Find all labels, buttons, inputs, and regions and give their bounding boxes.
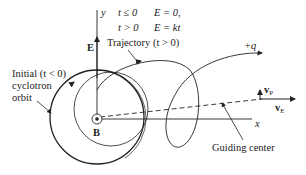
- guiding-center-pointer: [222, 103, 243, 140]
- ve-sub: E: [280, 107, 284, 115]
- inner-circle: [74, 72, 148, 146]
- x-axis-label: x: [255, 118, 260, 129]
- initial-orbit-label-1: Initial (t < 0): [12, 68, 66, 79]
- vp-label: vP: [264, 84, 273, 99]
- trajectory-label: Trajectory (t > 0): [107, 37, 179, 48]
- condition-e-line1: E = 0,: [154, 7, 181, 18]
- e-field-label: E: [87, 42, 94, 53]
- trajectory-path: [97, 53, 262, 147]
- condition-t-line2: t > 0: [118, 22, 139, 33]
- orbit-arrow-pointer: [37, 101, 51, 113]
- trajectory-pointer: [128, 50, 136, 60]
- orbit-arrow-left: [70, 82, 74, 85]
- trajectory-arrow-top: [136, 61, 141, 62]
- initial-orbit-label-2: cyclotron: [12, 80, 52, 91]
- initial-orbit-label-3: orbit: [12, 92, 32, 103]
- b-field-symbol-dot: [95, 117, 99, 121]
- guiding-center-label: Guiding center: [212, 142, 275, 153]
- condition-e-line2: E = kt: [154, 22, 180, 33]
- b-field-label: B: [93, 127, 100, 138]
- condition-t-line1: t ≤ 0: [118, 7, 137, 18]
- vp-sub: P: [269, 89, 273, 97]
- ve-label: vE: [275, 102, 285, 117]
- charge-label: +q: [244, 40, 256, 51]
- guiding-center-line: [100, 99, 262, 117]
- y-axis-label: y: [101, 7, 106, 18]
